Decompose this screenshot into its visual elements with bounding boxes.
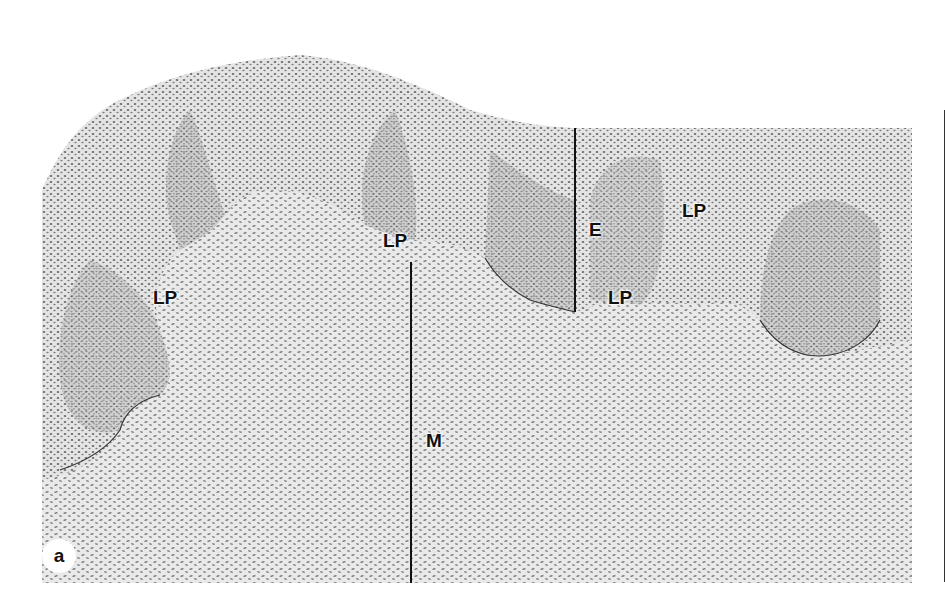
panel-label-badge: a <box>42 539 76 573</box>
label-lamina-propria-left: LP <box>153 288 177 307</box>
label-lamina-propria-right-lower: LP <box>608 288 632 307</box>
panel-label: a <box>54 545 65 567</box>
label-epithelium: E <box>589 220 602 239</box>
label-lamina-propria-center: LP <box>383 231 407 250</box>
label-lamina-propria-right-upper: LP <box>682 201 706 220</box>
label-mucosa: M <box>426 431 442 450</box>
histology-micrograph: LP LP LP LP E M a <box>0 0 945 611</box>
tissue-illustration <box>0 0 945 611</box>
